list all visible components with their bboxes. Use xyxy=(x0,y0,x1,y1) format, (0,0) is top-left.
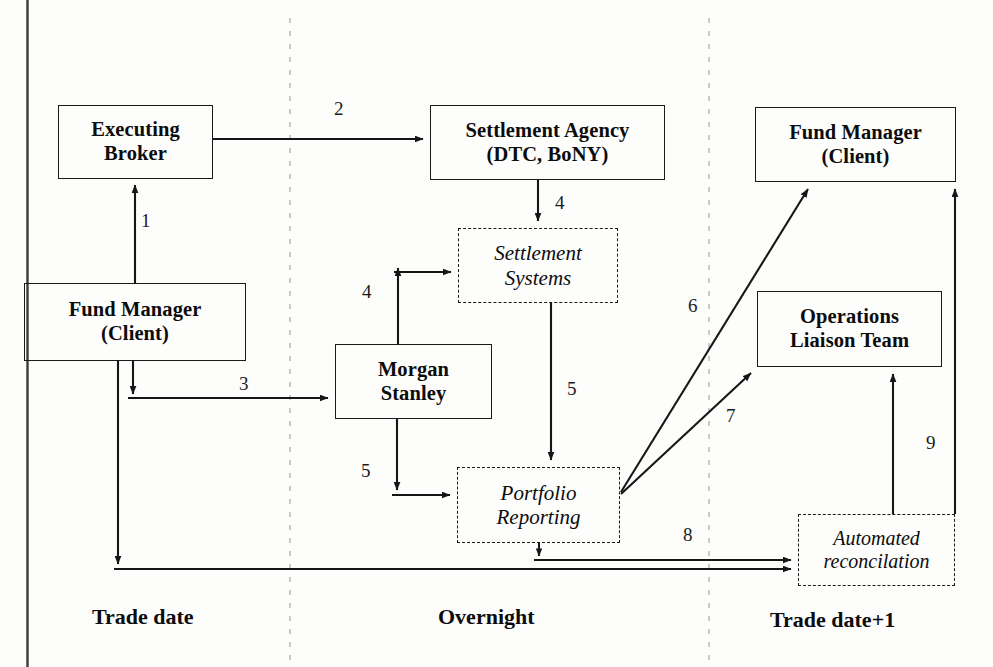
node-portfolio-reporting-line2: Reporting xyxy=(497,505,581,529)
connector-7 xyxy=(621,373,751,494)
node-morgan-stanley-line2: Stanley xyxy=(381,382,447,406)
node-settlement-agency-line1: Settlement Agency xyxy=(466,119,630,143)
node-settlement-systems[interactable]: Settlement Systems xyxy=(458,228,618,303)
phase-label-trade-date-plus-1: Trade date+1 xyxy=(770,607,895,633)
node-operations-liaison-team-line2: Liaison Team xyxy=(790,329,909,353)
node-fund-manager-left-line1: Fund Manager xyxy=(69,298,202,322)
node-settlement-agency-line2: (DTC, BoNY) xyxy=(487,143,609,167)
node-settlement-agency[interactable]: Settlement Agency (DTC, BoNY) xyxy=(430,105,665,180)
node-executing-broker[interactable]: Executing Broker xyxy=(58,105,213,179)
edge-label-5-settlement-systems: 5 xyxy=(567,378,577,400)
edge-label-4-morgan-stanley: 4 xyxy=(362,281,372,303)
edge-label-1: 1 xyxy=(141,210,151,232)
edge-label-5-morgan-stanley: 5 xyxy=(361,460,371,482)
node-operations-liaison-team[interactable]: Operations Liaison Team xyxy=(757,291,942,367)
node-portfolio-reporting-line1: Portfolio xyxy=(501,481,577,505)
node-morgan-stanley-line1: Morgan xyxy=(378,358,449,382)
edge-label-8: 8 xyxy=(683,524,693,546)
flow-diagram: Executing Broker Fund Manager (Client) S… xyxy=(0,0,993,667)
node-automated-reconciliation-line2: reconcilation xyxy=(824,550,930,573)
edge-label-6: 6 xyxy=(688,295,698,317)
node-fund-manager-left-line2: (Client) xyxy=(101,322,169,346)
edge-label-2: 2 xyxy=(334,98,344,120)
edge-label-7: 7 xyxy=(726,405,736,427)
node-morgan-stanley[interactable]: Morgan Stanley xyxy=(335,344,492,419)
edge-label-3: 3 xyxy=(239,373,249,395)
edge-label-9: 9 xyxy=(926,432,936,454)
node-automated-reconciliation[interactable]: Automated reconcilation xyxy=(798,514,955,586)
node-operations-liaison-team-line1: Operations xyxy=(800,305,899,329)
phase-label-overnight: Overnight xyxy=(438,604,535,630)
phase-label-trade-date: Trade date xyxy=(92,604,194,630)
node-fund-manager-right-line2: (Client) xyxy=(822,145,890,169)
node-fund-manager-left[interactable]: Fund Manager (Client) xyxy=(24,283,246,361)
node-portfolio-reporting[interactable]: Portfolio Reporting xyxy=(457,467,620,543)
node-settlement-systems-line1: Settlement xyxy=(494,241,581,265)
edge-label-4-settlement-agency: 4 xyxy=(555,192,565,214)
node-settlement-systems-line2: Systems xyxy=(505,266,572,290)
node-executing-broker-line2: Broker xyxy=(104,142,167,166)
node-automated-reconciliation-line1: Automated xyxy=(833,527,920,550)
node-executing-broker-line1: Executing xyxy=(91,118,180,142)
node-fund-manager-right[interactable]: Fund Manager (Client) xyxy=(755,107,956,182)
node-fund-manager-right-line1: Fund Manager xyxy=(789,121,922,145)
